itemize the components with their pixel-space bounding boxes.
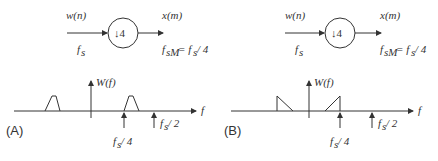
- spectrum-band-positive: [124, 96, 139, 111]
- svg-text:/ 2: / 2: [167, 117, 180, 129]
- panel-label: (B): [224, 123, 241, 138]
- panel-b-spectrum: W(f) f f s / 2 f s / 4 (B): [224, 76, 423, 150]
- panel-b: w(n) ↓4 x(m) f s f sM = f s / 4 W(f) f: [224, 9, 427, 150]
- decimator-operator: ↓4: [331, 27, 343, 39]
- frequency-axis-label: f: [201, 104, 206, 116]
- spectrum-band-negative: [277, 96, 293, 111]
- fs-quarter-label: f s / 4: [330, 135, 350, 150]
- output-signal-label: x(m): [379, 9, 400, 22]
- fs-half-label: f s / 2: [160, 117, 180, 132]
- spectrum-band-positive: [325, 96, 340, 111]
- svg-text:/ 4: / 4: [414, 43, 427, 55]
- decimator-operator: ↓4: [114, 27, 126, 39]
- panel-label: (A): [6, 123, 23, 138]
- input-signal-label: w(n): [66, 9, 87, 22]
- magnitude-axis-label: W(f): [96, 76, 116, 89]
- output-rate-label: f sM = f s / 4: [162, 43, 209, 58]
- output-rate-label: f sM = f s / 4: [380, 43, 427, 58]
- fs-half-label: f s / 2: [378, 117, 398, 132]
- svg-text:s: s: [299, 46, 303, 58]
- panel-a-block-diagram: w(n) ↓4 x(m) f s f sM = f s / 4: [66, 9, 209, 58]
- svg-text:/ 4: / 4: [120, 135, 133, 147]
- decimation-diagram: w(n) ↓4 x(m) f s f sM = f s / 4 W(f) f: [0, 0, 438, 161]
- input-signal-label: w(n): [285, 9, 306, 22]
- spectrum-band-negative: [45, 96, 60, 111]
- svg-text:/ 4: / 4: [196, 43, 209, 55]
- svg-text:/ 4: / 4: [337, 135, 350, 147]
- fs-quarter-label: f s / 4: [113, 135, 133, 150]
- svg-text:s: s: [81, 46, 85, 58]
- panel-a: w(n) ↓4 x(m) f s f sM = f s / 4 W(f) f: [6, 9, 209, 150]
- svg-text:= f: = f: [396, 43, 411, 55]
- input-rate-label: f s: [77, 43, 85, 58]
- svg-text:= f: = f: [178, 43, 193, 55]
- output-signal-label: x(m): [161, 9, 182, 22]
- panel-b-block-diagram: w(n) ↓4 x(m) f s f sM = f s / 4: [285, 9, 427, 58]
- panel-a-spectrum: W(f) f f s / 2 f s / 4 (A): [6, 76, 206, 150]
- svg-text:/ 2: / 2: [385, 117, 398, 129]
- magnitude-axis-label: W(f): [314, 76, 334, 89]
- frequency-axis-label: f: [418, 104, 423, 116]
- input-rate-label: f s: [295, 43, 303, 58]
